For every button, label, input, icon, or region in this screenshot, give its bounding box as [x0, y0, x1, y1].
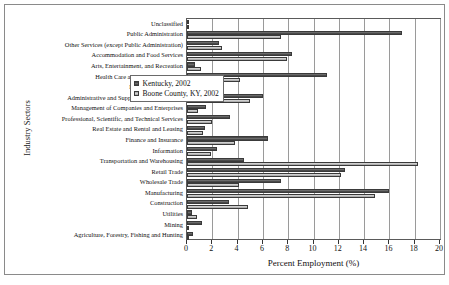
- category-label-column: UnclassifiedPublic AdministrationOther S…: [13, 18, 183, 240]
- category-label: Other Services (except Public Administra…: [13, 41, 183, 48]
- bar: [187, 226, 189, 230]
- bar: [187, 232, 193, 236]
- bar-group: [187, 188, 440, 199]
- bar: [187, 136, 268, 140]
- bar: [187, 200, 229, 204]
- bar: [187, 215, 197, 219]
- category-label: Wholesale Trade: [13, 178, 183, 185]
- category-label: Real Estate and Rental and Leasing: [13, 125, 183, 132]
- bar: [187, 141, 235, 145]
- x-tick-label: 0: [184, 244, 188, 253]
- x-tick-label: 2: [209, 244, 213, 253]
- x-tick-label: 6: [260, 244, 264, 253]
- bar-group: [187, 199, 440, 210]
- bar-group: [187, 51, 440, 62]
- x-tick-label: 8: [285, 244, 289, 253]
- category-label: Agriculture, Forestry, Fishing and Hunti…: [13, 231, 183, 238]
- plot-area: [186, 18, 441, 240]
- x-tick-label: 12: [334, 244, 342, 253]
- category-label: Unclassified: [13, 20, 183, 27]
- category-label: Arts, Entertainment, and Recreation: [13, 62, 183, 69]
- bar: [187, 131, 203, 135]
- bar: [187, 210, 192, 214]
- category-label: Utilities: [13, 210, 183, 217]
- bar-group: [187, 61, 440, 72]
- bar: [187, 183, 239, 187]
- legend-item-boone-county: Boone County, KY, 2002: [134, 89, 219, 99]
- x-tick-label: 4: [235, 244, 239, 253]
- bar: [187, 168, 345, 172]
- x-tick-label: 10: [309, 244, 317, 253]
- bar: [187, 221, 202, 225]
- bar: [187, 20, 189, 24]
- category-label: Transportation and Warehousing: [13, 157, 183, 164]
- category-label: Finance and Insurance: [13, 136, 183, 143]
- bar: [187, 152, 211, 156]
- category-label: Accommodation and Food Services: [13, 51, 183, 58]
- bar: [187, 67, 201, 71]
- bar: [187, 126, 205, 130]
- bar: [187, 35, 281, 39]
- bar: [187, 109, 198, 113]
- bar-group: [187, 114, 440, 125]
- bar-group: [187, 220, 440, 231]
- bar: [187, 179, 281, 183]
- bar: [187, 31, 402, 35]
- chart-frame: Industry Sectors UnclassifiedPublic Admi…: [4, 4, 445, 275]
- x-tick-label: 14: [359, 244, 367, 253]
- bar: [187, 115, 230, 119]
- bar-group: [187, 167, 440, 178]
- bar-group: [187, 93, 440, 104]
- bar: [187, 120, 212, 124]
- x-axis-tick-labels: 02468101214161820: [186, 244, 441, 256]
- bar: [187, 158, 244, 162]
- bar-group: [187, 72, 440, 83]
- chart-legend: Kentucky, 2002 Boone County, KY, 2002: [130, 75, 224, 102]
- category-label: Information: [13, 147, 183, 154]
- bar-group: [187, 178, 440, 189]
- category-label: Construction: [13, 199, 183, 206]
- legend-swatch-icon-boone-county: [134, 91, 139, 96]
- category-label: Retail Trade: [13, 168, 183, 175]
- bar-group: [187, 146, 440, 157]
- category-label: Mining: [13, 221, 183, 228]
- legend-swatch-icon-kentucky: [134, 81, 139, 86]
- bar-group: [187, 209, 440, 220]
- x-axis-title: Percent Employment (%): [186, 258, 441, 268]
- gridline: [440, 19, 441, 239]
- bar: [187, 41, 219, 45]
- bar-group: [187, 156, 440, 167]
- bar: [187, 194, 375, 198]
- bar-group: [187, 135, 440, 146]
- bar: [187, 173, 341, 177]
- x-tick-label: 20: [435, 244, 443, 253]
- bar-group: [187, 19, 440, 30]
- legend-label-kentucky: Kentucky, 2002: [143, 79, 191, 88]
- legend-item-kentucky: Kentucky, 2002: [134, 79, 219, 89]
- bar: [187, 147, 217, 151]
- bar-group: [187, 82, 440, 93]
- bar: [187, 62, 195, 66]
- x-tick-label: 16: [384, 244, 392, 253]
- category-label: Management of Companies and Enterprises: [13, 104, 183, 111]
- bar: [187, 25, 189, 29]
- bar: [187, 57, 287, 61]
- bar: [187, 162, 418, 166]
- category-label: Public Administration: [13, 30, 183, 37]
- bar: [187, 205, 248, 209]
- bar-group: [187, 40, 440, 51]
- bar: [187, 189, 389, 193]
- category-label: Professional, Scientific, and Technical …: [13, 115, 183, 122]
- x-tick-label: 18: [410, 244, 418, 253]
- category-label: Manufacturing: [13, 189, 183, 196]
- legend-label-boone-county: Boone County, KY, 2002: [143, 89, 219, 98]
- bar-group: [187, 125, 440, 136]
- bar-group: [187, 104, 440, 115]
- bar: [187, 46, 222, 50]
- bar: [187, 52, 292, 56]
- bar: [187, 105, 206, 109]
- bar-group: [187, 30, 440, 41]
